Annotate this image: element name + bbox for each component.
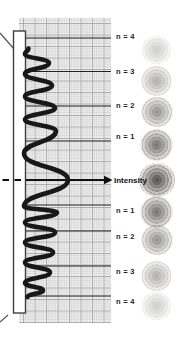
pointer-line-top — [0, 33, 15, 50]
diffraction-spot — [141, 97, 173, 127]
diffraction-spot — [140, 129, 173, 160]
diffraction-spot — [141, 225, 173, 255]
intensity-axis-label: Intensity — [114, 175, 160, 186]
diffraction-figure: n = 4 n = 3 n = 2 n = 1 n = 1 n = 2 n = … — [0, 0, 185, 340]
diffraction-spot — [140, 196, 173, 227]
diffraction-spot — [141, 261, 172, 290]
diffraction-spot — [141, 66, 172, 95]
order-label-top-4: n = 4 — [116, 32, 146, 42]
diffraction-spot — [142, 36, 171, 63]
pointer-line-bottom — [0, 315, 8, 322]
diffraction-spot — [142, 292, 171, 319]
